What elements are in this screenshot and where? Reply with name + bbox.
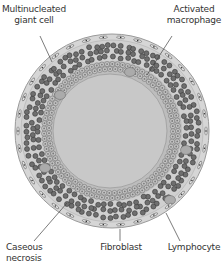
leader-lymphocyte [166, 213, 180, 241]
leader-giant-cell [40, 36, 52, 62]
label-giant-cell-line1: Multinucleated [0, 4, 68, 15]
label-multinucleated-giant-cell: Multinucleated giant cell [0, 4, 68, 26]
label-macrophage-line1: Activated [164, 4, 224, 15]
label-activated-macrophage: Activated macrophage [164, 4, 224, 26]
caseous-necrosis-core [53, 74, 167, 188]
label-fibroblast: Fibroblast [96, 242, 146, 253]
leader-necrosis [34, 203, 67, 241]
label-necrosis-line2: necrosis [6, 253, 50, 264]
label-macrophage-line2: macrophage [164, 15, 224, 26]
granuloma-diagram [0, 0, 224, 269]
label-caseous-necrosis: Caseous necrosis [6, 242, 50, 264]
label-necrosis-line1: Caseous [6, 242, 50, 253]
label-giant-cell-line2: giant cell [0, 15, 68, 26]
label-lymphocyte: Lymphocyte [164, 242, 224, 253]
